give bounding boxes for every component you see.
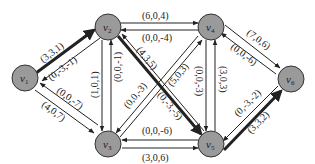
edge-label-v4-v6: (7,0,6) <box>244 27 273 53</box>
edge-label-v1-v3: (4,0,7) <box>39 99 68 124</box>
edge-label-v3-v4: (5,0,3) <box>165 61 191 89</box>
edge-label-v5-v4: (3,0,3) <box>217 66 229 93</box>
edge-label-v3-v2: (0,0,-1) <box>112 52 124 82</box>
edge-label-v5-v2: (0,-3,-5) <box>155 89 186 122</box>
node-v4: v4 <box>198 14 224 40</box>
edge-label-v4-v5: (0,0,-3) <box>193 66 205 96</box>
edge-label-v6-v4: (0,0,-6) <box>228 41 259 69</box>
edge-label-v4-v2: (0,0,-4) <box>142 32 172 44</box>
edge-v4-v3 <box>116 36 198 133</box>
edge-label-v2-v4: (6,0,4) <box>142 10 169 22</box>
edge-v2-v5 <box>118 36 201 134</box>
edge-v5-v2 <box>122 34 204 131</box>
edge-label-v5-v6: (3,3,2) <box>245 109 272 136</box>
edge-label-v3-v5: (3,0,6) <box>142 152 169 164</box>
edge-label-v2-v3: (1,0,1) <box>89 71 101 98</box>
node-v1: v1 <box>12 65 38 91</box>
node-v2: v2 <box>95 14 121 40</box>
node-v5: v5 <box>198 131 224 157</box>
flow-network-diagram: (3,3,1) (0,-3,-1) (4,0,7) (0,0,-7) (6,0,… <box>0 0 315 164</box>
node-v3: v3 <box>95 131 121 157</box>
edge-label-v5-v3: (0,0,-6) <box>142 125 172 137</box>
node-v6: v6 <box>278 66 304 92</box>
